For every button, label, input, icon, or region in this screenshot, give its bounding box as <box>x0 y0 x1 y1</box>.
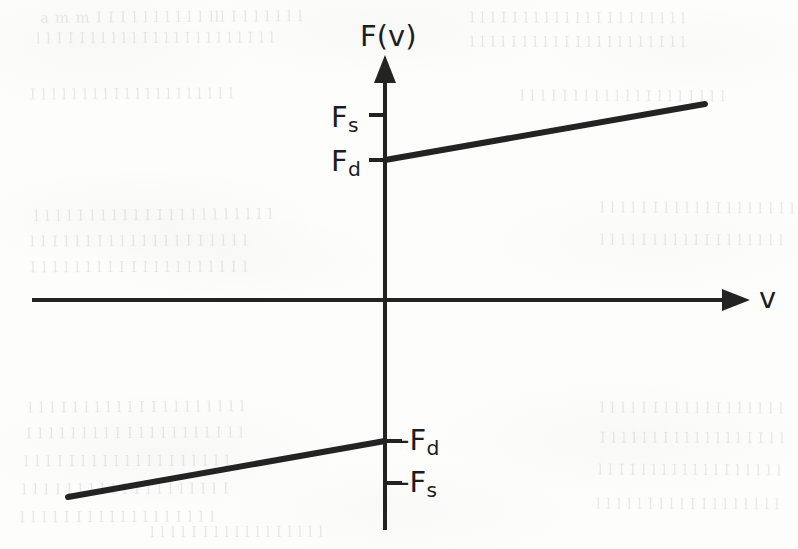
positive-velocity-branch <box>385 104 705 160</box>
tick-label-negative-Fd: -Fd <box>399 426 439 455</box>
tick-label-Fs-base: F <box>331 100 348 134</box>
tick-label-negative-Fd-sub: d <box>427 436 440 460</box>
x-axis-arrowhead <box>722 289 750 311</box>
tick-label-Fs-sub: s <box>348 113 359 137</box>
y-axis-label: F(v) <box>360 22 416 51</box>
tick-label-negative-Fd-base: -F <box>399 423 426 457</box>
tick-label-Fd-sub: d <box>348 157 361 181</box>
y-axis-arrowhead <box>374 55 396 83</box>
tick-label-Fd: Fd <box>331 147 361 176</box>
negative-velocity-branch <box>68 441 385 497</box>
tick-label-Fs: Fs <box>331 103 358 132</box>
figure-canvas: a m m I I I l l l l l l l lll I l l l l … <box>0 0 798 549</box>
tick-label-negative-Fs: -Fs <box>399 468 437 497</box>
tick-label-negative-Fs-sub: s <box>427 478 438 502</box>
x-axis-label: v <box>759 284 776 313</box>
tick-label-Fd-base: F <box>331 144 348 178</box>
tick-label-negative-Fs-base: -F <box>399 465 426 499</box>
